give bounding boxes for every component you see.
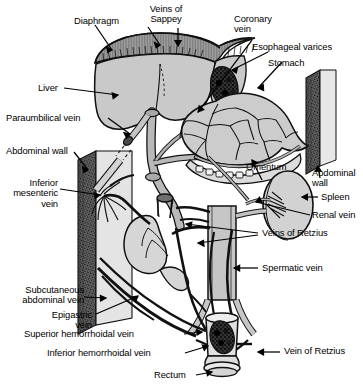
label-spermatic-vein: Spermatic vein — [262, 263, 323, 273]
label-esophageal-varices: Esophageal varices — [252, 42, 332, 52]
label-renal-vein: Renal vein — [312, 210, 355, 220]
label-inferior-hemorrhoidal-vein: Inferior hemorrhoidal vein — [47, 348, 151, 358]
label-paraumbilical-vein: Paraumbilical vein — [6, 113, 80, 123]
label-omentum: Omentum — [246, 162, 286, 172]
label-abdominal-wall-right: Abdominal wall — [312, 168, 355, 189]
label-inferior-mesenteric-vein: Inferior mesenteric vein — [0, 178, 58, 209]
label-veins-of-sappey: Veins of Sappey — [136, 4, 196, 25]
figure-canvas: Diaphragm Veins of Sappey Coronary vein … — [0, 0, 363, 387]
renal-vein — [236, 211, 266, 216]
label-subcutaneous-abdominal-vein: Subcutaneous abdominal vein — [0, 285, 84, 306]
label-spleen: Spleen — [321, 192, 350, 202]
label-vein-of-retzius: Vein of Retzius — [284, 346, 345, 356]
label-stomach: Stomach — [268, 58, 304, 68]
label-coronary-vein: Coronary vein — [234, 14, 272, 35]
label-liver: Liver — [38, 83, 58, 93]
rectum — [204, 313, 240, 377]
abdominal-wall-right — [306, 70, 336, 174]
label-diaphragm: Diaphragm — [74, 16, 119, 26]
label-rectum: Rectum — [154, 370, 186, 380]
label-abdominal-wall-left: Abdominal wall — [6, 146, 68, 156]
label-superior-hemorrhoidal-vein: Superior hemorrhoidal vein — [24, 329, 134, 339]
label-veins-of-retzius: Veins of Retzius — [262, 228, 328, 238]
